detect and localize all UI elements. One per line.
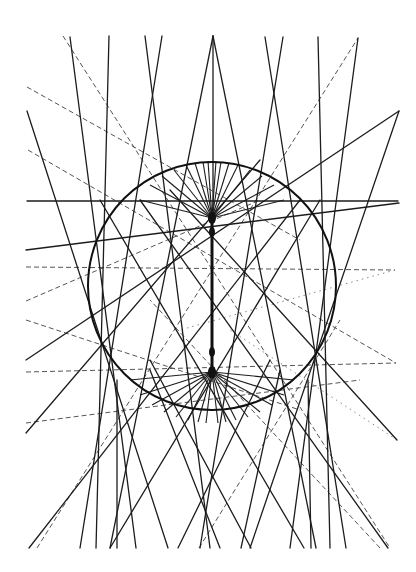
dashed-construction-line [63,36,390,548]
intersection-node [208,366,216,378]
construction-line [150,360,251,548]
intersection-node [208,212,216,224]
bottom-fan-ray [212,372,218,423]
construction-line [290,38,358,548]
intersection-node [209,347,215,357]
top-fan-ray [174,170,212,218]
construction-line [145,36,210,548]
dashed-construction-line [27,87,300,240]
construction-line [110,36,213,548]
figure-canvas [0,0,416,572]
intersection-node [209,227,215,237]
construction-line [170,190,397,440]
construction-line [100,200,304,548]
top-fan-ray [208,161,212,218]
string-art-diagram [0,0,416,572]
dashed-construction-line [26,320,300,410]
bottom-fan-ray [212,372,260,412]
construction-line [29,200,300,548]
construction-line [241,370,280,548]
construction-line [80,36,162,548]
construction-line [96,36,109,548]
